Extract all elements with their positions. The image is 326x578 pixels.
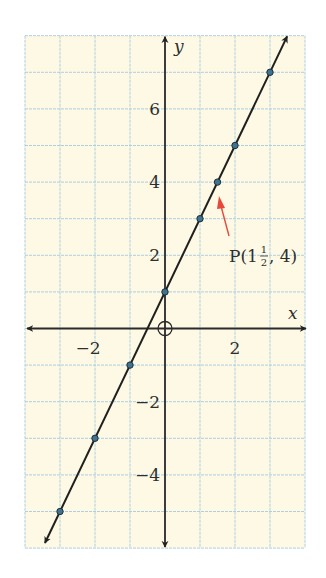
data-point — [197, 216, 203, 222]
data-point — [57, 508, 63, 514]
x-axis-label: x — [288, 303, 298, 323]
y-axis-label: y — [173, 36, 184, 56]
data-point — [92, 435, 98, 441]
data-point — [162, 289, 168, 295]
data-point — [214, 179, 220, 185]
data-point — [232, 142, 238, 148]
data-point — [127, 362, 133, 368]
y-tick-label: −2 — [135, 392, 160, 412]
data-point — [267, 69, 273, 75]
x-tick-label: 2 — [230, 338, 241, 358]
coordinate-graph: −22−4−2246 P(112, 4) x y — [0, 0, 326, 578]
annotation-label-suffix: , 4) — [269, 246, 297, 266]
y-tick-label: −4 — [135, 465, 160, 485]
x-tick-label: −2 — [75, 338, 100, 358]
annotation-frac-denominator: 2 — [261, 257, 267, 268]
y-tick-label: 4 — [149, 172, 160, 192]
annotation-frac-numerator: 1 — [261, 244, 267, 255]
y-tick-label: 6 — [149, 99, 160, 119]
annotation-label-prefix: P(1 — [229, 246, 258, 266]
y-tick-label: 2 — [149, 245, 160, 265]
